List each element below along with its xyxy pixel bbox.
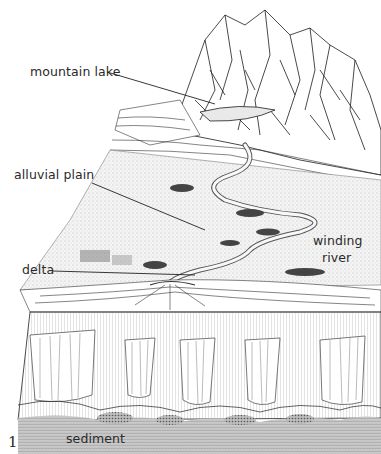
- label-delta: delta: [22, 264, 54, 277]
- mountain-range: [180, 10, 381, 175]
- label-alluvial-plain: alluvial plain: [14, 169, 94, 182]
- figure-number: 1: [8, 433, 18, 451]
- cross-section: [18, 312, 381, 420]
- label-river: river: [322, 252, 351, 265]
- label-sediment: sediment: [66, 433, 125, 446]
- label-winding: winding: [313, 235, 363, 248]
- label-mountain-lake: mountain lake: [30, 66, 121, 79]
